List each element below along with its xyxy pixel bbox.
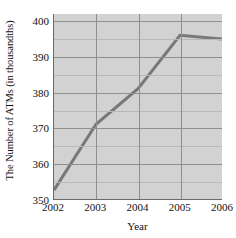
x-tick-label: 2002 [42,202,64,213]
gridline-vertical [181,14,182,199]
y-tick-label: 370 [33,123,50,134]
y-axis-title: The Number of ATMs (in thousandths) [0,0,18,200]
y-tick-label: 400 [33,16,50,27]
gridline-vertical [139,14,140,199]
x-tick-label: 2003 [84,202,106,213]
plot-area [53,14,222,200]
y-tick-label: 360 [33,159,50,170]
y-axis-title-text: The Number of ATMs (in thousandths) [4,20,15,180]
x-axis-tick-labels: 20022003200420052006 [53,202,222,218]
y-axis-tick-labels: 350360370380390400 [18,0,51,200]
y-tick-label: 390 [33,51,50,62]
y-tick-label: 380 [33,87,50,98]
x-axis-title: Year [53,220,222,232]
x-tick-label: 2006 [211,202,233,213]
x-tick-label: 2005 [169,202,191,213]
gridline-vertical [96,14,97,199]
atm-line-chart: The Number of ATMs (in thousandths) 3503… [0,0,236,238]
x-tick-label: 2004 [127,202,149,213]
